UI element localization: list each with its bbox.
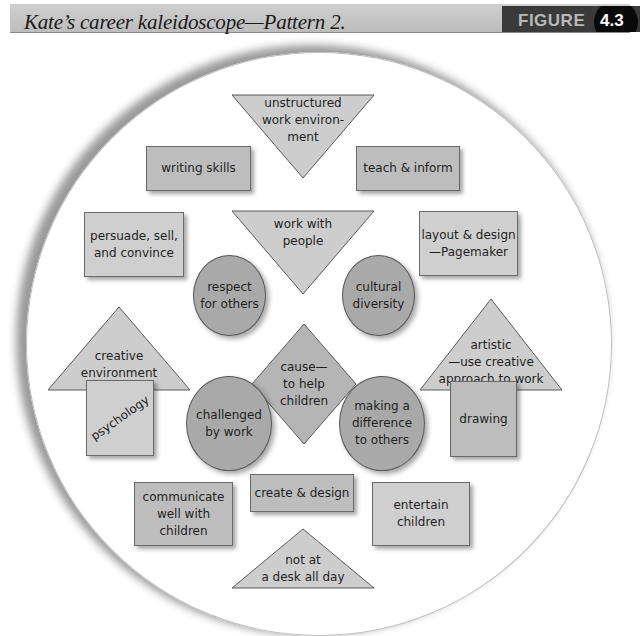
figure-label: FIGURE xyxy=(518,11,585,31)
shape-label: unstructured work environ- ment xyxy=(229,92,377,185)
shape-communicate-well-with-children: communicate well with children xyxy=(134,482,233,546)
figure-number: 4.3 xyxy=(600,11,624,31)
shape-label: challenged by work xyxy=(187,377,271,470)
shape-label: layout & design —Pagemaker xyxy=(420,212,517,275)
shape-unstructured-work-environment: unstructured work environ- ment xyxy=(229,92,377,182)
shape-label: communicate well with children xyxy=(135,483,232,545)
shape-not-at-a-desk: not at a desk all day xyxy=(229,526,377,592)
shape-label: drawing xyxy=(451,382,516,456)
shape-label: persuade, sell, and convince xyxy=(85,213,183,276)
shape-teach-inform: teach & inform xyxy=(356,146,460,191)
shape-entertain-children: entertain children xyxy=(372,482,470,546)
shape-label: psychology xyxy=(72,369,169,467)
figure-caption: Kate’s career kaleidoscope—Pattern 2. xyxy=(24,10,346,35)
shape-challenged-by-work: challenged by work xyxy=(186,376,272,471)
shape-psychology: psychology xyxy=(86,380,154,456)
shape-label: making a difference to others xyxy=(340,377,424,470)
shape-label: teach & inform xyxy=(357,147,459,190)
shape-drawing: drawing xyxy=(450,381,517,457)
shape-label: create & design xyxy=(251,475,353,511)
shape-making-a-difference: making a difference to others xyxy=(339,376,425,471)
shape-writing-skills: writing skills xyxy=(146,146,251,191)
shape-create-design: create & design xyxy=(250,474,354,512)
shape-label: entertain children xyxy=(373,483,469,545)
shape-persuade-sell-convince: persuade, sell, and convince xyxy=(84,212,184,277)
shape-layout-design: layout & design —Pagemaker xyxy=(419,211,518,276)
shape-label: not at a desk all day xyxy=(229,526,377,592)
shape-label: writing skills xyxy=(147,147,250,190)
figure-badge: FIGURE 4.3 xyxy=(502,6,640,32)
